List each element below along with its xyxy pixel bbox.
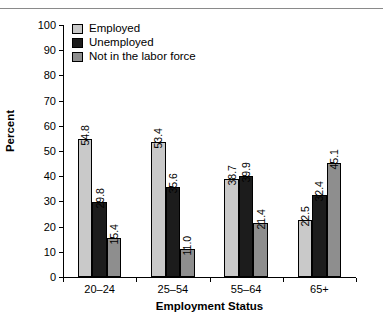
y-axis-tick-label: 40 [26, 171, 56, 182]
bar [239, 176, 254, 277]
bar-value-label: 54.8 [80, 125, 91, 145]
legend-item: Unemployed [72, 36, 196, 49]
y-axis-tick-label: 80 [26, 70, 56, 81]
y-axis-tick-label: 20 [26, 222, 56, 233]
y-axis-tick [59, 151, 63, 152]
y-axis-tick [59, 25, 63, 26]
bar [151, 142, 166, 277]
bar-value-label: 38.7 [226, 166, 237, 186]
bar-value-label: 22.5 [299, 206, 310, 226]
y-axis-tick-label: 30 [26, 196, 56, 207]
bar-value-label: 32.4 [314, 181, 325, 201]
y-axis-tick-label: 0 [26, 272, 56, 283]
x-axis-tick-label: 25–54 [138, 284, 208, 295]
y-axis-tick-label: 10 [26, 247, 56, 258]
y-axis-tick [59, 201, 63, 202]
bar [92, 202, 107, 277]
bar [166, 187, 181, 277]
x-axis-tick-label: 65+ [284, 284, 354, 295]
bar-chart-figure: Percent Employment Status 01020304050607… [0, 0, 383, 320]
bar-value-label: 21.4 [255, 209, 266, 229]
bar-value-label: 45.1 [328, 149, 339, 169]
bar [78, 139, 93, 277]
y-axis-tick [59, 176, 63, 177]
legend-swatch [72, 24, 83, 34]
x-axis-tick-label: 20–24 [65, 284, 135, 295]
bar [298, 220, 313, 277]
bar-value-label: 39.9 [241, 163, 252, 183]
x-axis-tick-label: 55–64 [211, 284, 281, 295]
legend-label: Employed [89, 23, 140, 35]
chart-legend: EmployedUnemployedNot in the labor force [72, 22, 196, 64]
y-axis-tick [59, 252, 63, 253]
y-axis-tick [59, 126, 63, 127]
top-divider-rule [0, 8, 383, 9]
legend-item: Employed [72, 22, 196, 35]
y-axis-tick [59, 50, 63, 51]
x-axis-tick [283, 278, 284, 282]
legend-item: Not in the labor force [72, 50, 196, 63]
x-axis-tick [210, 278, 211, 282]
y-axis-tick [59, 101, 63, 102]
y-axis-title: Percent [4, 91, 16, 171]
bar-value-label: 11.0 [182, 236, 193, 256]
x-axis-tick [63, 278, 64, 282]
bar [224, 179, 239, 277]
y-axis-tick [59, 227, 63, 228]
bar-value-label: 15.4 [109, 224, 120, 244]
legend-swatch [72, 38, 83, 48]
x-axis-tick [356, 278, 357, 282]
legend-label: Unemployed [89, 37, 154, 49]
y-axis-tick-label: 60 [26, 121, 56, 132]
y-axis-tick-label: 50 [26, 146, 56, 157]
bar [312, 195, 327, 277]
y-axis-tick-label: 70 [26, 96, 56, 107]
bar-value-label: 29.8 [94, 188, 105, 208]
y-axis-line [63, 25, 64, 278]
x-axis-title: Employment Status [63, 300, 356, 312]
bar-value-label: 53.4 [153, 128, 164, 148]
legend-swatch [72, 52, 83, 62]
bar [327, 163, 342, 277]
y-axis-tick-label: 90 [26, 45, 56, 56]
bar-value-label: 35.6 [167, 173, 178, 193]
bar [253, 223, 268, 277]
legend-label: Not in the labor force [89, 51, 196, 63]
y-axis-tick [59, 75, 63, 76]
x-axis-tick [136, 278, 137, 282]
y-axis-tick-label: 100 [26, 20, 56, 31]
